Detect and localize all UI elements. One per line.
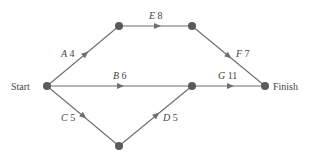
finish-label: Finish — [273, 81, 298, 92]
activity-a-label: A 4 — [60, 48, 75, 59]
node-4 — [115, 142, 123, 150]
activity-g-label: G 11 — [218, 70, 237, 81]
node-3 — [188, 82, 196, 90]
activity-e-label: E 8 — [148, 10, 163, 21]
activity-c-label: C 5 — [61, 112, 75, 123]
activity-d-label: D 5 — [162, 112, 178, 123]
arrow-g-icon — [227, 83, 234, 89]
node-1 — [115, 22, 123, 30]
arrow-b-icon — [117, 83, 124, 89]
node-start — [43, 82, 51, 90]
activity-f-label: F 7 — [235, 48, 250, 59]
node-finish — [261, 82, 269, 90]
edge-a — [47, 26, 119, 86]
node-2 — [188, 22, 196, 30]
start-label: Start — [11, 81, 30, 92]
activity-b-label: B 6 — [113, 70, 127, 81]
network-diagram: Start Finish A 4 E 8 F 7 B 6 G 11 C 5 D … — [0, 0, 314, 161]
arrow-e-icon — [154, 23, 161, 29]
